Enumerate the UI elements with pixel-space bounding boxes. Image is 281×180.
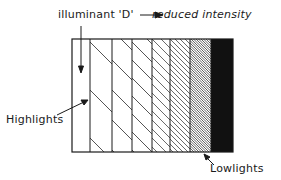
illumination-gradient-diagram — [0, 0, 281, 180]
column-hatch-3 — [132, 24, 154, 172]
lowlights-label: Lowlights — [210, 162, 264, 175]
column-hatch-2 — [112, 30, 134, 172]
column-hatch-1 — [90, 42, 112, 160]
column-lowlight-solid — [211, 39, 233, 152]
highlights-label: Highlights — [6, 113, 63, 126]
illuminant-label: illuminant 'D' — [58, 8, 134, 21]
reduced-intensity-label: reduced intensity — [152, 8, 252, 21]
column-hatch-5 — [170, 19, 192, 171]
column-hatch-4 — [152, 21, 172, 167]
